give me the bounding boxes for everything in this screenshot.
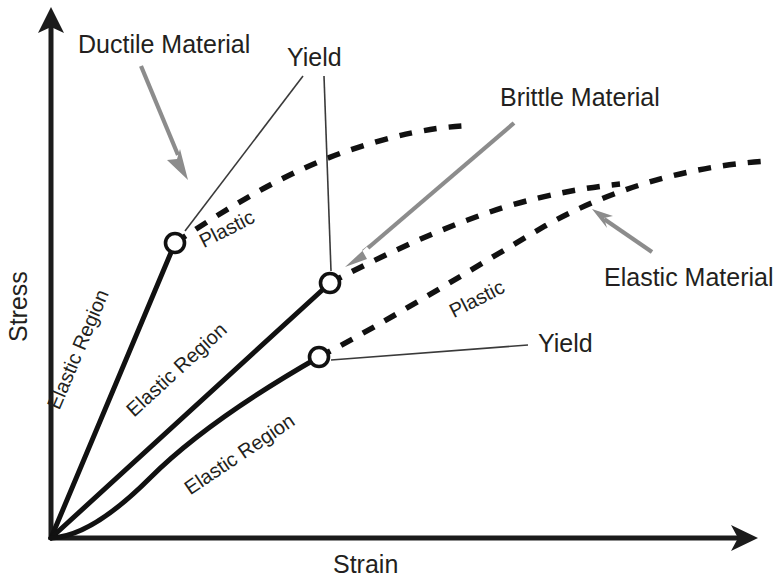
brittle-material-curve <box>51 184 620 538</box>
yield-bottom-leader-to-elastic <box>331 345 528 360</box>
brittle-material-callout-arrow <box>345 123 514 267</box>
stress-strain-diagram: Stress Strain Ductile Material Brittle M… <box>0 0 775 585</box>
ductile-yield-point <box>166 234 185 253</box>
brittle-arrow-shaft <box>368 123 514 248</box>
yield-label-top: Yield <box>287 45 342 70</box>
yield-top-leader-to-brittle <box>324 76 331 271</box>
elastic-material-callout-arrow <box>592 209 652 252</box>
elastic-arrow-shaft <box>604 219 652 252</box>
elastic-material-curve <box>51 161 768 538</box>
ductile-material-curve <box>51 126 462 538</box>
callout-label-elastic-material: Elastic Material <box>604 265 774 290</box>
elastic-material-yield-point <box>310 348 329 367</box>
ductile-material-callout-arrow <box>141 66 188 180</box>
yield-label-bottom: Yield <box>538 331 593 356</box>
elastic-material-plastic-segment <box>319 161 768 357</box>
ductile-arrow-shaft <box>141 66 178 155</box>
y-axis-label: Stress <box>6 271 31 342</box>
x-axis-label: Strain <box>333 552 398 577</box>
brittle-yield-point <box>321 274 340 293</box>
callout-label-brittle-material: Brittle Material <box>500 85 660 110</box>
callout-label-ductile-material: Ductile Material <box>78 32 250 57</box>
